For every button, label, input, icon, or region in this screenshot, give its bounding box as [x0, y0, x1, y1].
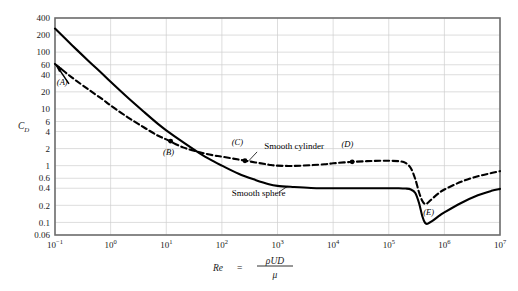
y-tick-label: 60: [41, 60, 51, 70]
y-axis-ticks: 4002001006040201064210.60.40.20.10.06: [34, 13, 50, 240]
y-tick-label: 4: [46, 127, 51, 137]
label-point-b: (B): [163, 147, 174, 157]
x-tick-label: 104: [327, 238, 340, 250]
curve-labels: Smooth cylinderSmooth sphere: [232, 141, 324, 198]
marker-point-d: [350, 159, 355, 164]
x-axis-ticks: 10−1100101102103104105106107: [47, 238, 507, 250]
label-point-c: (C): [232, 137, 244, 147]
svg-text:101: 101: [160, 238, 172, 250]
smooth-sphere-label: Smooth sphere: [232, 188, 286, 198]
svg-text:105: 105: [383, 238, 395, 250]
x-axis-title-equals: =: [237, 263, 242, 273]
svg-text:107: 107: [494, 238, 507, 250]
chart-canvas: (A)(B)(C)(D)(E) Smooth cylinderSmooth sp…: [0, 0, 518, 291]
arrowhead-point-a: [55, 64, 62, 72]
y-tick-label: 2: [46, 144, 51, 154]
y-axis-title: CD: [18, 121, 29, 133]
y-tick-label: 0.4: [39, 183, 51, 193]
x-axis-title-re: Re: [212, 263, 223, 273]
svg-text:104: 104: [327, 238, 340, 250]
svg-text:106: 106: [438, 238, 451, 250]
marker-point-c: [243, 158, 248, 163]
axis-titles: CDRe=ρUDμ: [18, 121, 293, 280]
svg-text:103: 103: [271, 238, 283, 250]
x-tick-label: 100: [105, 238, 117, 250]
leader-line: [248, 152, 257, 161]
gridlines: [55, 18, 500, 235]
label-point-e: (E): [423, 207, 434, 217]
y-tick-label: 20: [41, 87, 51, 97]
y-tick-label: 40: [41, 70, 51, 80]
x-tick-label: 101: [160, 238, 172, 250]
smooth-cylinder-label: Smooth cylinder: [264, 141, 324, 151]
x-tick-label: 103: [271, 238, 283, 250]
y-tick-label: 100: [37, 47, 51, 57]
y-tick-label: 400: [37, 13, 51, 23]
drag-coefficient-chart: (A)(B)(C)(D)(E) Smooth cylinderSmooth sp…: [0, 0, 518, 291]
x-tick-label: 105: [383, 238, 395, 250]
x-tick-label: 102: [216, 238, 228, 250]
y-tick-label: 200: [37, 30, 51, 40]
x-axis-title-denominator: μ: [272, 270, 278, 280]
y-tick-label: 1: [46, 161, 51, 171]
x-axis-title-numerator: ρUD: [265, 256, 284, 266]
svg-text:100: 100: [105, 238, 117, 250]
y-tick-label: 10: [41, 104, 51, 114]
y-tick-label: 0.2: [39, 201, 50, 211]
y-tick-label: 0.1: [39, 218, 50, 228]
label-point-a: (A): [57, 77, 68, 87]
x-tick-label: 107: [494, 238, 507, 250]
y-tick-label: 0.6: [39, 173, 51, 183]
svg-text:102: 102: [216, 238, 228, 250]
y-tick-label: 0.06: [34, 230, 50, 240]
label-point-d: (D): [341, 139, 353, 149]
y-tick-label: 6: [46, 117, 51, 127]
x-tick-label: 106: [438, 238, 451, 250]
marker-point-b: [168, 139, 173, 144]
